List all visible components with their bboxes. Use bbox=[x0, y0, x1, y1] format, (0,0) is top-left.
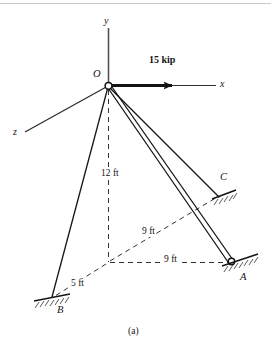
member-oa-edge-left bbox=[108, 88, 228, 262]
force-label-15kip: 15 kip bbox=[148, 55, 176, 65]
x-axis-label: x bbox=[220, 79, 224, 89]
statics-diagram bbox=[0, 0, 271, 357]
members-group bbox=[52, 87, 233, 297]
point-label-a: A bbox=[240, 272, 246, 283]
dimension-label-9ft-diagonal: 9 ft bbox=[141, 227, 156, 237]
z-axis-line bbox=[25, 86, 108, 132]
joint-o-circle bbox=[105, 82, 112, 89]
dimension-label-5ft: 5 ft bbox=[70, 279, 85, 289]
figure-caption: (a) bbox=[128, 327, 139, 337]
member-ob bbox=[52, 87, 108, 297]
dimension-label-9ft-horizontal: 9 ft bbox=[163, 255, 178, 265]
axes-group bbox=[25, 28, 216, 132]
member-oa-edge-right bbox=[112, 87, 233, 260]
figure-container: y x z O A B C 15 kip 12 ft 9 ft 9 ft 5 f… bbox=[0, 0, 271, 357]
point-label-b: B bbox=[57, 305, 63, 316]
support-c bbox=[212, 190, 237, 205]
point-label-o: O bbox=[93, 69, 101, 80]
y-axis-label: y bbox=[104, 16, 108, 26]
support-b-hatching bbox=[35, 297, 69, 308]
member-oc bbox=[109, 87, 219, 197]
point-label-c: C bbox=[220, 172, 227, 183]
dimension-label-12ft: 12 ft bbox=[100, 169, 120, 179]
dim-line-9ft-diagonal-to-c bbox=[110, 196, 219, 261]
joint-o bbox=[105, 82, 112, 89]
z-axis-label: z bbox=[13, 127, 17, 137]
